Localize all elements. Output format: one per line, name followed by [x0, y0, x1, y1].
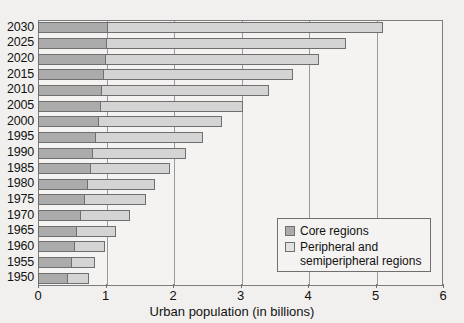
bar-row-1985 — [38, 163, 443, 174]
legend-item-peripheral: Peripheral and semiperipheral regions — [285, 240, 430, 268]
bar-row-1950 — [38, 273, 443, 284]
bar-segment-peripheral-1990 — [92, 148, 186, 159]
urban-population-stacked-bar-chart: 2030202520202015201020052000199519901985… — [0, 0, 464, 323]
bar-row-2005 — [38, 101, 443, 112]
bar-row-1995 — [38, 132, 443, 143]
core-swatch-icon — [285, 226, 295, 236]
bar-segment-core-1965 — [38, 226, 77, 237]
bar-segment-peripheral-1965 — [76, 226, 115, 237]
bar-segment-core-2005 — [38, 101, 101, 112]
y-axis-label-1960: 1960 — [7, 240, 34, 253]
y-axis-label-1955: 1955 — [7, 256, 34, 269]
bar-segment-peripheral-2020 — [105, 54, 319, 65]
y-axis-label-1980: 1980 — [7, 177, 34, 190]
bar-segment-core-1950 — [38, 273, 68, 284]
bar-segment-peripheral-2005 — [100, 101, 243, 112]
legend-label-peripheral-line2: semiperipheral regions — [300, 254, 421, 268]
x-tick-label-1: 1 — [102, 288, 109, 303]
bar-row-1990 — [38, 148, 443, 159]
x-tick-label-0: 0 — [34, 288, 41, 303]
y-axis-label-2015: 2015 — [7, 68, 34, 81]
legend-label-core: Core regions — [300, 224, 369, 238]
bar-segment-peripheral-1980 — [87, 179, 156, 190]
bar-segment-peripheral-1995 — [95, 132, 203, 143]
bar-segment-peripheral-2000 — [98, 116, 223, 127]
bar-segment-core-1990 — [38, 148, 93, 159]
bar-segment-core-1980 — [38, 179, 88, 190]
bar-segment-core-1970 — [38, 210, 81, 221]
bar-row-2025 — [38, 38, 443, 49]
x-axis-title: Urban population (in billions) — [0, 304, 464, 319]
y-axis-label-2030: 2030 — [7, 21, 34, 34]
bar-row-1980 — [38, 179, 443, 190]
bar-row-2010 — [38, 85, 443, 96]
bar-segment-core-2000 — [38, 116, 99, 127]
bar-segment-peripheral-1960 — [74, 241, 105, 252]
chart-legend: Core regions Peripheral and semiperipher… — [277, 218, 431, 272]
bar-segment-core-2010 — [38, 85, 102, 96]
bar-segment-peripheral-1970 — [80, 210, 130, 221]
bar-segment-peripheral-1955 — [71, 257, 96, 268]
y-axis-label-2020: 2020 — [7, 52, 34, 65]
x-tick-label-2: 2 — [169, 288, 176, 303]
x-tick-label-4: 4 — [304, 288, 311, 303]
bar-segment-peripheral-1985 — [90, 163, 171, 174]
y-axis-label-2010: 2010 — [7, 83, 34, 96]
x-tick-label-3: 3 — [237, 288, 244, 303]
bar-segment-core-1955 — [38, 257, 72, 268]
y-axis-label-1975: 1975 — [7, 193, 34, 206]
bar-segment-peripheral-2015 — [103, 69, 293, 80]
y-axis-label-1965: 1965 — [7, 224, 34, 237]
bar-segment-core-1995 — [38, 132, 96, 143]
bar-segment-core-2015 — [38, 69, 104, 80]
bar-row-2020 — [38, 54, 443, 65]
bar-segment-core-1960 — [38, 241, 75, 252]
bar-segment-core-2025 — [38, 38, 107, 49]
bar-segment-core-2030 — [38, 22, 108, 33]
y-axis-label-1995: 1995 — [7, 130, 34, 143]
y-axis-label-2005: 2005 — [7, 99, 34, 112]
y-axis-label-1985: 1985 — [7, 162, 34, 175]
bar-segment-peripheral-2025 — [106, 38, 346, 49]
bar-segment-core-2020 — [38, 54, 106, 65]
bar-row-2015 — [38, 69, 443, 80]
y-axis-label-2000: 2000 — [7, 115, 34, 128]
bar-segment-peripheral-2030 — [107, 22, 383, 33]
legend-item-core: Core regions — [285, 224, 430, 238]
bar-segment-peripheral-1950 — [67, 273, 88, 284]
legend-label-peripheral-line1: Peripheral and — [300, 240, 378, 254]
legend-label-peripheral: Peripheral and semiperipheral regions — [300, 240, 421, 268]
bar-segment-core-1975 — [38, 194, 85, 205]
y-axis-label-1950: 1950 — [7, 271, 34, 284]
bar-segment-core-1985 — [38, 163, 91, 174]
y-axis-label-1990: 1990 — [7, 146, 34, 159]
bar-segment-peripheral-1975 — [84, 194, 146, 205]
bar-segment-peripheral-2010 — [101, 85, 269, 96]
bar-row-1975 — [38, 194, 443, 205]
y-axis-label-1970: 1970 — [7, 209, 34, 222]
y-axis-label-2025: 2025 — [7, 36, 34, 49]
x-tick-label-6: 6 — [439, 288, 446, 303]
bar-row-2030 — [38, 22, 443, 33]
bar-row-2000 — [38, 116, 443, 127]
y-axis-labels: 2030202520202015201020052000199519901985… — [0, 20, 36, 286]
x-tick-label-5: 5 — [372, 288, 379, 303]
peripheral-swatch-icon — [285, 242, 295, 252]
